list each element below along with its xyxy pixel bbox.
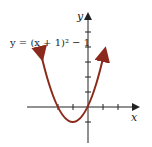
parabola-curve (41, 54, 104, 122)
y-axis (85, 16, 91, 143)
y-axis-label: y (76, 10, 84, 23)
parabola-graph: y = (x + 1)² − 1 y x (0, 0, 152, 147)
x-axis (27, 104, 136, 110)
x-axis-label: x (131, 111, 138, 124)
equation-label: y = (x + 1)² − 1 (9, 37, 90, 48)
